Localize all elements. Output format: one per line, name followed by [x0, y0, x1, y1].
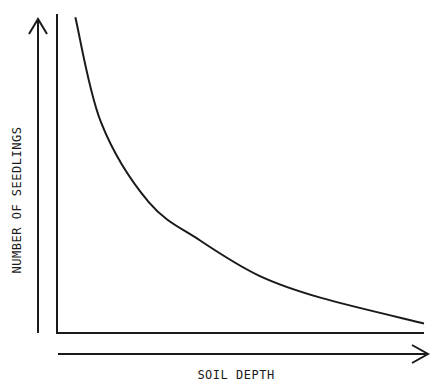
y-axis-arrow: [29, 19, 47, 333]
plot-frame: [56, 14, 424, 333]
x-axis-arrow: [58, 345, 428, 363]
x-axis-label: SOIL DEPTH: [197, 368, 274, 382]
y-axis-label: NUMBER OF SEEDLINGS: [10, 127, 24, 274]
chart: NUMBER OF SEEDLINGS SOIL DEPTH: [0, 0, 439, 384]
seedlings-curve: [75, 17, 424, 323]
